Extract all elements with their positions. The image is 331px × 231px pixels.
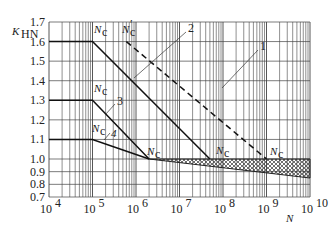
nc-label: N	[91, 122, 100, 134]
x-axis-label: N	[285, 212, 294, 224]
y-tick-label: 1.3	[30, 93, 45, 107]
curve-label-4: 4	[111, 127, 117, 139]
x-tick-label: 10	[258, 202, 270, 216]
y-axis-label-sub: HN	[21, 27, 39, 41]
x-tick-exponent: 10	[316, 196, 328, 210]
y-tick-label: 1.1	[30, 132, 45, 146]
y-tick-label: 1.5	[30, 54, 45, 68]
y-tick-label: 1.4	[30, 74, 45, 88]
hatched-region	[149, 159, 310, 178]
x-tick-label: 10	[84, 202, 96, 216]
leader-line	[222, 50, 258, 88]
curve-label-2: 2	[188, 21, 194, 35]
x-tick-label: 10	[214, 202, 226, 216]
nc-label: N	[93, 82, 102, 94]
hatched-band	[149, 159, 310, 178]
x-tick-exponent: 5	[99, 196, 105, 210]
x-tick-label: 10	[301, 202, 313, 216]
x-tick-exponent: 9	[273, 196, 279, 210]
nc-sub: c	[155, 147, 160, 161]
nc-label: N	[146, 145, 155, 157]
y-tick-label: 1.2	[30, 113, 45, 127]
curve-label-3: 3	[117, 94, 123, 108]
x-tick-exponent: 7	[186, 196, 192, 210]
x-tick-exponent: 6	[142, 196, 148, 210]
nc-label: N	[93, 23, 102, 35]
nc-sub: c	[100, 124, 105, 138]
y-axis-label: K	[11, 25, 20, 37]
nc-label: N	[269, 145, 278, 157]
x-tick-label: 10	[171, 202, 183, 216]
nc-label: N	[121, 23, 130, 35]
x-tick-label: 10	[127, 202, 139, 216]
curve-label-1: 1	[260, 39, 266, 53]
nc-prime: ′	[130, 17, 133, 31]
nc-sub: c	[102, 84, 107, 98]
x-tick-exponent: 8	[229, 196, 235, 210]
nc-sub: c	[102, 25, 107, 39]
nc-sub: c	[224, 146, 229, 160]
nc-sub: c	[278, 147, 283, 161]
x-tick-exponent: 4	[55, 196, 61, 210]
fatigue-life-factor-chart: 1.71.61.51.41.31.21.11.00.90.80.71041051…	[0, 0, 331, 231]
nc-label: N	[215, 144, 224, 156]
x-tick-label: 10	[40, 202, 52, 216]
